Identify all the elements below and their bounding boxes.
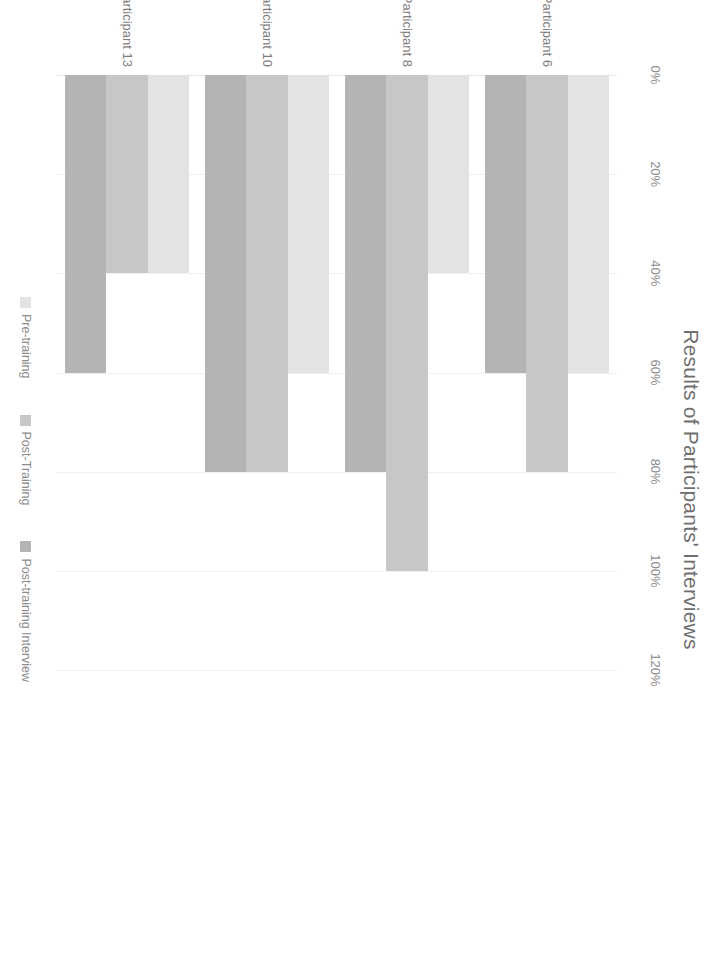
bar[interactable]	[386, 75, 427, 571]
legend-item-label: Pre-training	[19, 314, 33, 379]
plot-area: 0%20%40%60%80%100%120%Participant 6Parti…	[57, 75, 617, 670]
legend-item[interactable]: Post-training Interview	[19, 541, 33, 682]
bar[interactable]	[288, 75, 329, 373]
bar[interactable]	[485, 75, 526, 373]
legend-swatch-icon	[21, 415, 32, 426]
chart-legend: Pre-trainingPost-TrainingPost-training I…	[19, 0, 33, 979]
bar-group	[485, 75, 609, 670]
x-axis-tick-label: 0%	[648, 66, 663, 85]
bar[interactable]	[428, 75, 469, 273]
legend-item[interactable]: Pre-training	[19, 297, 33, 379]
x-axis-tick-label: 60%	[648, 359, 663, 385]
gridline-120%	[57, 670, 617, 671]
bar-group	[205, 75, 329, 670]
legend-item-label: Post-training Interview	[19, 558, 33, 682]
bar[interactable]	[148, 75, 189, 273]
bar[interactable]	[205, 75, 246, 472]
bar-group	[345, 75, 469, 670]
x-axis-tick-label: 100%	[648, 554, 663, 587]
bar[interactable]	[526, 75, 567, 472]
category-label: Participant 6	[540, 0, 555, 75]
legend-item[interactable]: Post-Training	[19, 415, 33, 506]
x-axis-tick-label: 20%	[648, 161, 663, 187]
bar-group	[65, 75, 189, 670]
category-label: Participant 10	[260, 0, 275, 75]
bar[interactable]	[246, 75, 287, 472]
bar[interactable]	[345, 75, 386, 472]
legend-swatch-icon	[21, 541, 32, 552]
x-axis-tick-label: 120%	[648, 653, 663, 686]
legend-swatch-icon	[21, 297, 32, 308]
category-label: Participant 8	[400, 0, 415, 75]
chart-figure: Results of Participants' Interviews 0%20…	[0, 0, 717, 979]
category-label: Participant 13	[120, 0, 135, 75]
bar[interactable]	[568, 75, 609, 373]
x-axis-tick-label: 40%	[648, 260, 663, 286]
bar[interactable]	[106, 75, 147, 273]
x-axis-tick-label: 80%	[648, 459, 663, 485]
legend-item-label: Post-Training	[19, 432, 33, 506]
page-title: Results of Participants' Interviews	[679, 0, 703, 979]
bar[interactable]	[65, 75, 106, 373]
